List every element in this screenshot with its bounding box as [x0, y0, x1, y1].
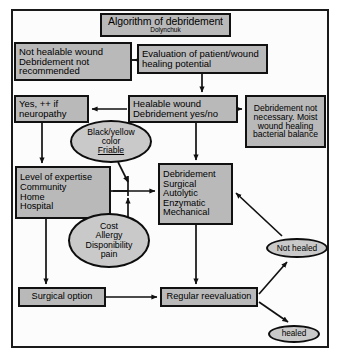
node-line: pain: [101, 250, 118, 259]
node-line: neuropathy: [19, 109, 84, 119]
node-evaluation-of-patient[interactable]: Evaluation of patient/wound healing pote…: [137, 44, 268, 74]
node-line: Mechanical: [163, 208, 228, 218]
node-line: Not healed: [277, 244, 318, 253]
node-line: Friable: [98, 146, 124, 155]
diagram-canvas: Algorithm of debridement Dolynchuk Not h…: [0, 0, 348, 359]
node-yes-neuropathy[interactable]: Yes, ++ if neuropathy: [14, 95, 89, 123]
node-debridement-not-necessary[interactable]: Debridement not necessary. Moist wound h…: [245, 95, 326, 148]
node-line: healing potential: [142, 59, 263, 69]
node-cost-allergy-disponibility-pain[interactable]: Cost Allergy Disponibility pain: [68, 213, 150, 268]
node-healable-wound[interactable]: Healable wound Debridement yes/no: [128, 95, 238, 123]
node-not-healable-wound[interactable]: Not healable wound Debridement not recom…: [14, 42, 132, 81]
node-not-healed[interactable]: Not healed: [266, 238, 328, 258]
node-healed[interactable]: healed: [268, 325, 320, 343]
node-line: Surgical option: [32, 292, 93, 302]
node-black-yellow-color-friable[interactable]: Black/yellow color Friable: [70, 120, 152, 163]
node-line: Regular reevaluation: [167, 292, 252, 302]
node-line: bacterial balance: [253, 130, 318, 139]
node-line: Debridement yes/no: [133, 109, 233, 119]
node-level-of-expertise[interactable]: Level of expertise Community Home Hospit…: [15, 166, 111, 219]
node-line: recommended: [19, 66, 127, 76]
node-surgical-option[interactable]: Surgical option: [18, 287, 106, 307]
author-text: Dolynchuk: [150, 27, 180, 34]
title-box: Algorithm of debridement Dolynchuk: [100, 13, 231, 37]
node-line: Hospital: [20, 202, 106, 212]
node-debridement-methods[interactable]: Debridement Surgical Autolytic Enzymatic…: [158, 163, 233, 225]
node-line: healed: [282, 330, 307, 339]
node-regular-reevaluation[interactable]: Regular reevaluation: [160, 287, 258, 307]
